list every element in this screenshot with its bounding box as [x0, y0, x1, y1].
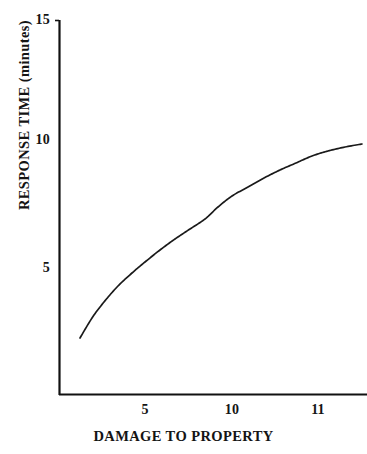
x-tick-label-5: 5	[125, 402, 165, 418]
x-axis-title: DAMAGE TO PROPERTY	[0, 428, 367, 445]
y-tick-label-5: 5	[14, 260, 50, 276]
plot-area	[0, 0, 367, 454]
x-tick-label-10: 10	[212, 402, 252, 418]
x-tick-label-11: 11	[298, 402, 338, 418]
y-axis-title: RESPONSE TIME (minutes)	[16, 20, 33, 210]
chart-figure: 15 10 5 5 10 11 RESPONSE TIME (minutes) …	[0, 0, 367, 454]
data-series-line	[80, 144, 362, 338]
y-axis-title-wrapper: RESPONSE TIME (minutes)	[13, 0, 35, 235]
